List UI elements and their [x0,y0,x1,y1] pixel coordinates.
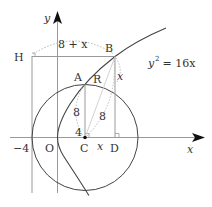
label-C: C [80,142,88,155]
label-H: H [14,51,24,64]
label-B: B [105,42,113,55]
segment-label-CD: x [97,140,104,153]
segment-label-HB: 8 + x [58,38,88,51]
tick-label-minus-4: −4 [13,142,29,155]
diagram-canvas: y x H B A R O C D −4 8 + x x 8 8 x 4 y 2… [0,0,212,207]
parabola-circle-diagram: y x H B A R O C D −4 8 + x x 8 8 x 4 y 2… [0,0,212,207]
point-C-dot [83,136,87,140]
segment-label-BD: x [117,70,124,83]
x-axis-label: x [187,143,194,156]
label-D: D [110,142,119,155]
equation-base: y [147,57,155,70]
right-angle-mark-D [115,134,119,138]
segment-label-CB: 8 [99,110,106,123]
segment-label-AC: 8 [73,106,80,119]
label-R: R [93,73,102,86]
label-O: O [45,142,54,155]
y-axis-label: y [43,12,51,25]
segment-label-C-small: 4 [75,126,82,139]
equation-rest: = 16x [159,57,196,70]
label-A: A [73,71,83,84]
equation-label: y 2 = 16x [147,55,196,70]
